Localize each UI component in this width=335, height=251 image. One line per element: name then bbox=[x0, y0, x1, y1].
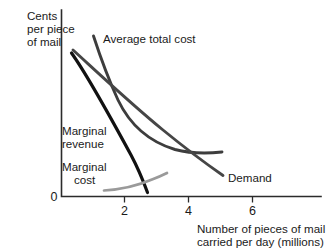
label-marginal-cost-line-1: Marginal bbox=[62, 160, 106, 173]
label-average-total-cost: Average total cost bbox=[103, 32, 196, 45]
label-marginal-revenue-line-2: revenue bbox=[62, 137, 104, 150]
chart-canvas: Cents per piece of mail 0 2 4 6 Number o… bbox=[0, 0, 335, 251]
label-marginal-revenue-line-1: Marginal bbox=[62, 124, 106, 137]
x-tick-label-6: 6 bbox=[249, 204, 256, 218]
label-demand: Demand bbox=[228, 171, 272, 184]
y-axis-title-line-3: of mail bbox=[27, 35, 61, 48]
label-marginal-cost-line-2: cost bbox=[74, 173, 96, 186]
curve-demand bbox=[73, 50, 223, 176]
x-tick-label-4: 4 bbox=[185, 204, 192, 218]
origin-label: 0 bbox=[51, 190, 58, 204]
economics-chart-figure: Cents per piece of mail 0 2 4 6 Number o… bbox=[0, 0, 335, 251]
curve-marginal-cost bbox=[104, 173, 167, 191]
y-axis-title-line-1: Cents bbox=[27, 9, 57, 22]
x-tick-label-2: 2 bbox=[121, 204, 128, 218]
curve-average-total-cost bbox=[94, 36, 223, 153]
x-axis-title-line-2: carried per day (millions) bbox=[197, 235, 324, 248]
x-axis-title-line-1: Number of pieces of mail bbox=[197, 222, 325, 235]
y-axis-title-line-2: per piece bbox=[27, 22, 75, 35]
